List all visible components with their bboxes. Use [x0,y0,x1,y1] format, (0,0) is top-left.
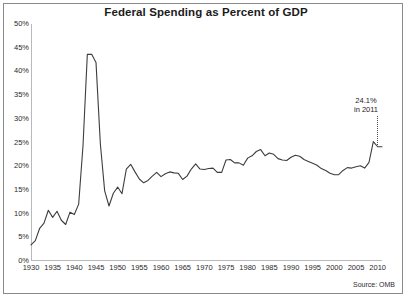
chart-figure: Federal Spending as Percent of GDP 0%5%1… [0,0,407,298]
chart-title: Federal Spending as Percent of GDP [30,6,382,18]
y-axis-tick-labels: 0%5%10%15%20%25%30%35%40%45%50% [0,24,29,261]
annotation-value: 24.1% [345,96,387,105]
y-axis-tick-label: 50% [3,20,29,28]
y-axis-tick-label: 40% [3,67,29,75]
y-axis-tick-label: 35% [3,91,29,99]
source-note: Source: OMB [353,281,395,288]
x-axis-tick-labels: 1930193519401945195019551960196519701975… [31,263,391,275]
x-axis-tick-label: 2010 [363,263,393,272]
y-axis-tick-label: 10% [3,210,29,218]
annotation-year: in 2011 [345,105,387,114]
data-series-svg [31,24,382,261]
spending-line-series [31,54,382,245]
y-axis-tick-label: 25% [3,139,29,147]
y-axis-tick-label: 45% [3,44,29,52]
y-axis-tick-label: 20% [3,162,29,170]
y-axis-tick-label: 15% [3,186,29,194]
plot-area [31,24,382,261]
annotation-leader-line [377,116,378,145]
y-axis-tick-label: 30% [3,115,29,123]
peak-annotation: 24.1% in 2011 [345,96,387,114]
y-axis-tick-label: 5% [3,233,29,241]
